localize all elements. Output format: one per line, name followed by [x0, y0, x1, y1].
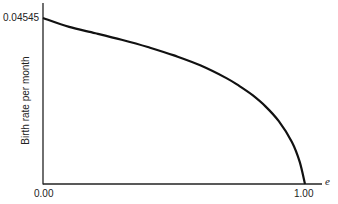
x-axis-variable-label: e [325, 176, 330, 187]
birth-rate-curve [43, 18, 305, 184]
y-axis-label: Birth rate per month [20, 51, 31, 151]
chart-plot [0, 0, 338, 204]
y-tick-label-top: 0.04545 [3, 13, 39, 23]
x-tick-label-end: 1.00 [294, 189, 313, 199]
x-tick-label-origin: 0.00 [34, 189, 53, 199]
